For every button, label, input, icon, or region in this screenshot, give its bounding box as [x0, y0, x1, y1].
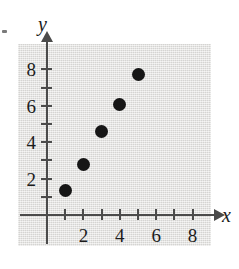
x-tick-1	[64, 209, 66, 220]
data-point	[132, 68, 145, 81]
x-tick-label-2: 2	[79, 226, 89, 245]
x-tick-label-4: 4	[115, 226, 125, 245]
x-tick-label-6: 6	[151, 226, 161, 245]
page-edge-artifact	[2, 30, 7, 33]
y-tick-label-8: 8	[27, 60, 37, 79]
y-tick-label-4: 4	[27, 133, 37, 152]
x-tick-4	[119, 209, 121, 220]
scatter-plot-figure: 2468 2468 y x	[0, 0, 239, 269]
y-tick-label-slot-4: 4	[0, 142, 36, 143]
y-tick-3	[41, 159, 52, 161]
y-tick-5	[41, 123, 52, 125]
y-tick-7	[41, 87, 52, 89]
y-tick-1	[41, 196, 52, 198]
y-axis-label: y	[38, 14, 47, 34]
x-tick-6	[155, 209, 157, 220]
x-axis-label: x	[222, 205, 231, 225]
x-tick-5	[137, 209, 139, 220]
y-tick-2	[41, 178, 52, 180]
y-tick-label-2: 2	[27, 169, 37, 188]
x-tick-2	[82, 209, 84, 220]
x-tick-7	[173, 209, 175, 220]
y-tick-label-slot-8: 8	[0, 69, 36, 70]
x-tick-8	[192, 209, 194, 220]
y-tick-6	[41, 105, 52, 107]
data-point	[59, 184, 72, 197]
y-tick-label-6: 6	[27, 96, 37, 115]
data-point	[77, 158, 90, 171]
y-tick-4	[41, 141, 52, 143]
y-tick-label-slot-6: 6	[0, 106, 36, 107]
x-tick-3	[101, 209, 103, 220]
y-tick-8	[41, 68, 52, 70]
x-tick-label-8: 8	[188, 226, 198, 245]
data-point	[95, 125, 108, 138]
y-tick-label-slot-2: 2	[0, 179, 36, 180]
